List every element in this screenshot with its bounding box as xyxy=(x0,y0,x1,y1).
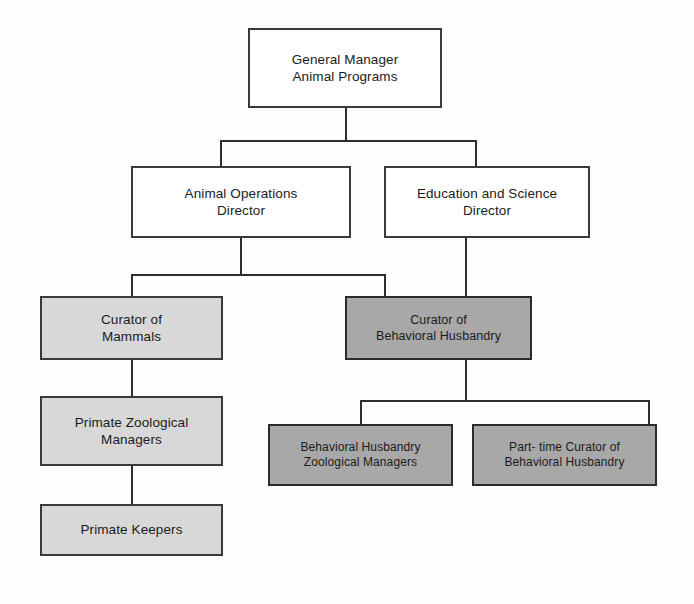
connector-gm-bus xyxy=(220,140,477,142)
connector-primate-managers-to-primate-keepers xyxy=(131,466,133,504)
node-part-time-curator-behavioral-husbandry[interactable]: Part- time Curator of Behavioral Husband… xyxy=(472,424,657,486)
connector-curator-mammals-to-primate-managers xyxy=(131,360,133,396)
node-curator-of-mammals-label: Curator of Mammals xyxy=(95,311,168,346)
connector-gm-to-animal-operations xyxy=(220,140,222,166)
node-curator-behavioral-husbandry-label: Curator of Behavioral Husbandry xyxy=(370,312,507,344)
node-behavioral-husbandry-zoological-managers-label: Behavioral Husbandry Zoological Managers xyxy=(294,440,426,471)
node-primate-keepers-label: Primate Keepers xyxy=(74,521,188,538)
node-curator-of-mammals[interactable]: Curator of Mammals xyxy=(40,296,223,360)
connector-curator-behavioral-to-part-time-curator xyxy=(648,400,650,424)
connector-gm-stem xyxy=(345,108,347,140)
connector-gm-to-education-science xyxy=(475,140,477,166)
connector-curator-behavioral-bus xyxy=(360,400,650,402)
node-part-time-curator-behavioral-husbandry-label: Part- time Curator of Behavioral Husband… xyxy=(498,440,630,471)
node-general-manager-label: General Manager Animal Programs xyxy=(286,51,405,86)
node-primate-keepers[interactable]: Primate Keepers xyxy=(40,504,223,556)
org-chart: General Manager Animal Programs Animal O… xyxy=(0,0,694,604)
node-behavioral-husbandry-zoological-managers[interactable]: Behavioral Husbandry Zoological Managers xyxy=(268,424,453,486)
node-primate-zoological-managers-label: Primate Zoological Managers xyxy=(69,414,195,449)
connector-animal-operations-to-curator-mammals xyxy=(131,274,133,296)
connector-curator-behavioral-stem xyxy=(465,360,467,400)
connector-education-science-to-curator-behavioral xyxy=(465,238,467,296)
node-animal-operations-director-label: Animal Operations Director xyxy=(179,185,304,220)
connector-animal-operations-to-curator-behavioral xyxy=(384,274,386,296)
node-primate-zoological-managers[interactable]: Primate Zoological Managers xyxy=(40,396,223,466)
node-general-manager[interactable]: General Manager Animal Programs xyxy=(248,28,442,108)
connector-animal-operations-bus xyxy=(131,274,384,276)
node-education-science-director-label: Education and Science Director xyxy=(411,185,563,220)
node-curator-behavioral-husbandry[interactable]: Curator of Behavioral Husbandry xyxy=(345,296,532,360)
connector-curator-behavioral-to-bh-managers xyxy=(360,400,362,424)
node-education-science-director[interactable]: Education and Science Director xyxy=(384,166,590,238)
connector-animal-operations-stem xyxy=(240,238,242,274)
node-animal-operations-director[interactable]: Animal Operations Director xyxy=(131,166,351,238)
